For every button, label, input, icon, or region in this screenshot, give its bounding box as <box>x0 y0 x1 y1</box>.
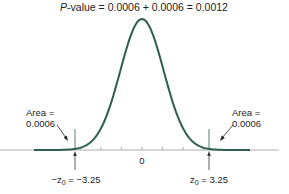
axis-label-zero: 0 <box>139 155 144 166</box>
right-area-pointer-arrow <box>220 125 233 141</box>
left-area-label-line1: Area = <box>26 107 55 118</box>
left-cutoff-label: −z0 = −3.25 <box>51 174 100 186</box>
right-cutoff-label: z0 = 3.25 <box>190 174 228 186</box>
left-area-label-line2: 0.0006 <box>26 118 55 129</box>
figure-title: P-value = 0.0006 + 0.0006 = 0.0012 <box>60 1 228 13</box>
right-cutoff-arrow <box>207 151 211 170</box>
left-cutoff-arrow <box>73 151 77 170</box>
right-area-label-line2: 0.0006 <box>232 118 261 129</box>
normal-distribution-figure: P-value = 0.0006 + 0.0006 = 0.0012 0 −z0… <box>0 0 289 194</box>
axis-ticks <box>80 147 204 150</box>
normal-curve <box>34 19 250 150</box>
right-area-label-line1: Area = <box>232 107 261 118</box>
left-area-pointer-arrow <box>57 125 68 141</box>
